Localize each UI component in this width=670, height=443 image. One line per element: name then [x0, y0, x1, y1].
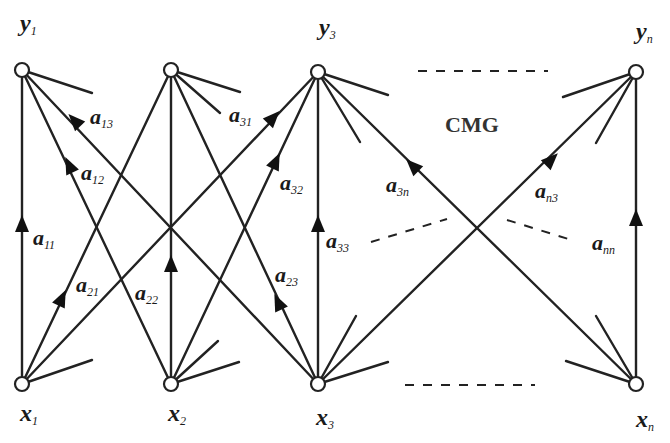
label-x3: x3 — [316, 404, 334, 433]
arrow-a12-icon — [59, 154, 79, 175]
label-a12: a12 — [81, 160, 104, 188]
arrow-a32-icon — [266, 150, 286, 171]
node-x2 — [164, 377, 178, 391]
label-a3n: a3n — [386, 172, 409, 200]
ellipsis-middle-right — [507, 220, 575, 241]
diagram-title: CMG — [445, 112, 499, 138]
label-xn: xn — [636, 406, 654, 435]
arrow-a33-icon — [311, 215, 325, 232]
label-y1: y1 — [20, 10, 37, 39]
label-yn: yn — [636, 18, 653, 47]
arrow-a22-icon — [164, 255, 178, 272]
label-an3: an3 — [535, 178, 558, 206]
stub-y2-a — [171, 70, 240, 92]
label-a22: a22 — [135, 280, 158, 308]
node-xn — [629, 377, 643, 391]
cmg-graph-diagram — [0, 0, 670, 443]
label-ann: ann — [592, 230, 615, 258]
arrow-an3-icon — [541, 148, 563, 170]
node-x3 — [311, 377, 325, 391]
node-x1 — [15, 377, 29, 391]
label-a32: a32 — [280, 170, 303, 198]
ellipsis-middle-left — [371, 219, 447, 242]
label-a11: a11 — [33, 225, 55, 253]
stub-y2-b — [171, 70, 220, 113]
label-x2: x2 — [168, 400, 186, 429]
label-a23: a23 — [275, 262, 298, 290]
label-a21: a21 — [76, 272, 99, 300]
node-yn — [629, 65, 643, 79]
arrow-a21-icon — [52, 287, 72, 308]
label-y3: y3 — [319, 14, 336, 43]
node-y2 — [164, 63, 178, 77]
arrow-a11-icon — [15, 215, 29, 232]
label-a13: a13 — [90, 104, 113, 132]
node-y1 — [15, 63, 29, 77]
label-a33: a33 — [326, 228, 349, 256]
label-a31: a31 — [229, 102, 252, 130]
arrow-a13-icon — [63, 109, 85, 131]
label-x1: x1 — [20, 400, 38, 429]
stub-x2-b — [171, 362, 239, 384]
node-y3 — [311, 65, 325, 79]
arrow-ann-icon — [629, 209, 643, 226]
arrow-a23-icon — [268, 291, 288, 312]
